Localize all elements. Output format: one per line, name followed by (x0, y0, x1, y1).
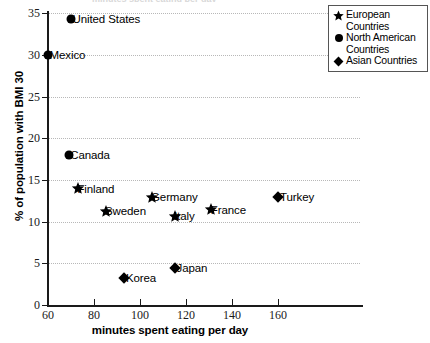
legend-item-label: Asian Countries (346, 55, 425, 67)
legend-item-label: European Countries (346, 9, 425, 32)
y-axis-title: % of population with BMI 30 (13, 51, 25, 241)
data-point-sweden[interactable]: Sweden (99, 204, 112, 217)
data-point-france[interactable]: France (205, 203, 218, 216)
x-axis-line (47, 305, 363, 307)
data-point-italy[interactable]: Italy (168, 209, 181, 222)
y-tick-label-5: 5 (0, 256, 40, 271)
gridline-y-25 (49, 97, 360, 98)
legend: European CountriesNorth American Countri… (328, 5, 428, 72)
legend-item-european-countries[interactable]: European Countries (332, 9, 425, 32)
data-point-korea[interactable]: Korea (120, 274, 128, 282)
x-tick-label-80: 80 (74, 308, 114, 323)
data-point-germany[interactable]: Germany (145, 190, 158, 203)
data-point-canada[interactable]: Canada (64, 150, 73, 159)
data-point-mexico[interactable]: Mexico (44, 50, 53, 59)
x-tick-label-100: 100 (120, 308, 160, 323)
y-tick-label-35: 35 (0, 6, 40, 21)
diamond-legend-icon (332, 55, 345, 67)
gridline-y-20 (49, 138, 360, 139)
data-point-finland[interactable]: Finland (71, 182, 84, 195)
scatter-chart: minutes spent eating per day 05101520253… (0, 0, 430, 343)
x-tick-label-140: 140 (212, 308, 252, 323)
legend-item-north-american-countries[interactable]: North American Countries (332, 32, 425, 55)
gridline-y-30 (49, 55, 360, 56)
x-tick-label-160: 160 (258, 308, 298, 323)
x-axis-title: minutes spent eating per day (0, 324, 340, 336)
x-tick-label-60: 60 (28, 308, 68, 323)
circle-legend-icon (332, 32, 345, 44)
data-point-united-states[interactable]: United States (67, 14, 76, 23)
x-tick-label-120: 120 (166, 308, 206, 323)
legend-item-label: North American Countries (346, 32, 425, 55)
gridline-y-10 (49, 222, 360, 223)
data-point-turkey[interactable]: Turkey (274, 193, 282, 201)
data-point-japan[interactable]: Japan (171, 264, 179, 272)
legend-item-asian-countries[interactable]: Asian Countries (332, 55, 425, 67)
star-legend-icon (332, 9, 345, 21)
gridline-y-15 (49, 180, 360, 181)
